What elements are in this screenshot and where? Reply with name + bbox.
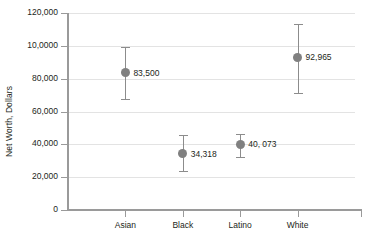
y-tick-mark xyxy=(61,210,67,211)
gridline xyxy=(68,79,355,80)
y-tick-label: 10,0000 xyxy=(2,40,58,50)
error-bar-cap-upper xyxy=(121,47,130,48)
x-axis-end-tick xyxy=(361,211,362,217)
data-label-latino: 40, 073 xyxy=(248,139,276,149)
data-label-white: 92,965 xyxy=(306,52,332,62)
gridline xyxy=(68,46,355,47)
error-bar-cap-upper xyxy=(294,24,303,25)
y-tick-label: 40,000 xyxy=(2,138,58,148)
y-tick-mark xyxy=(61,112,67,113)
y-tick-label: 80,000 xyxy=(2,73,58,83)
x-tick-mark xyxy=(298,211,299,217)
error-bar-cap-lower xyxy=(294,93,303,94)
y-tick-mark xyxy=(61,13,67,14)
gridline xyxy=(68,13,355,14)
error-bar-cap-lower xyxy=(179,171,188,172)
data-label-black: 34,318 xyxy=(191,149,217,159)
y-tick-label: 60,000 xyxy=(2,106,58,116)
y-axis-spine xyxy=(67,13,69,211)
y-tick-label: 120,000 xyxy=(2,7,58,17)
error-bar-cap-upper xyxy=(179,135,188,136)
x-tick-mark xyxy=(240,211,241,217)
data-label-asian: 83,500 xyxy=(133,68,159,78)
error-bar-cap-lower xyxy=(121,99,130,100)
error-bar-cap-upper xyxy=(236,134,245,135)
gridline xyxy=(68,144,355,145)
y-tick-label: 20,000 xyxy=(2,171,58,181)
y-tick-mark xyxy=(61,177,67,178)
error-bar-cap-lower xyxy=(236,157,245,158)
y-tick-mark xyxy=(61,144,67,145)
y-tick-label: 0 xyxy=(2,204,58,214)
x-tick-label-white: White xyxy=(263,220,333,230)
net-worth-dot-plot: Net Worth, Dollars 020,00040,00060,00080… xyxy=(0,0,371,243)
plot-area xyxy=(68,13,355,210)
data-marker-white[interactable] xyxy=(293,53,302,62)
x-tick-mark xyxy=(183,211,184,217)
data-marker-latino[interactable] xyxy=(236,140,245,149)
gridline xyxy=(68,177,355,178)
y-tick-mark xyxy=(61,46,67,47)
y-tick-mark xyxy=(61,79,67,80)
x-axis-spine xyxy=(68,209,362,211)
x-tick-mark xyxy=(125,211,126,217)
gridline xyxy=(68,112,355,113)
